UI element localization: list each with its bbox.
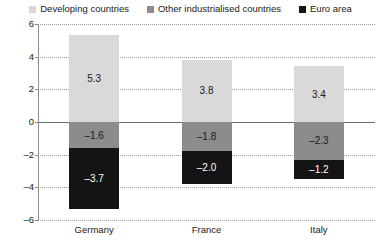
plot-area: 5.3–1.6–3.73.8–1.8–2.03.4–2.3–1.2 xyxy=(38,24,375,220)
bar-value-label: 3.4 xyxy=(312,89,326,100)
bar-group[interactable]: 5.3–1.6–3.7 xyxy=(69,24,119,220)
y-axis-tick-label: –2 xyxy=(4,150,34,160)
legend-item-euro-area: Euro area xyxy=(299,4,352,14)
legend-swatch-developing-countries xyxy=(29,6,36,13)
x-axis-tick-label: Germany xyxy=(44,224,144,235)
bar-group[interactable]: 3.8–1.8–2.0 xyxy=(182,24,232,220)
y-axis-tick xyxy=(35,220,39,221)
y-axis-tick-label: –6 xyxy=(4,215,34,225)
y-axis-tick xyxy=(35,155,39,156)
y-axis-tick-label: 2 xyxy=(4,84,34,94)
bar-value-label: –3.7 xyxy=(84,173,103,184)
y-axis-tick xyxy=(35,187,39,188)
y-axis-line xyxy=(38,24,39,220)
bar-value-label: –1.2 xyxy=(309,164,328,175)
bar-segment[interactable]: –1.8 xyxy=(182,122,232,151)
bar-segment[interactable]: 3.4 xyxy=(294,66,344,122)
bar-segment[interactable]: –1.6 xyxy=(69,122,119,148)
x-axis-tick-label: Italy xyxy=(269,224,369,235)
bar-segment[interactable]: –2.0 xyxy=(182,151,232,184)
legend-label-other-industrialised-countries: Other industrialised countries xyxy=(158,4,281,14)
y-axis-tick-label: 6 xyxy=(4,19,34,29)
gridline xyxy=(38,220,375,221)
bar-segment[interactable]: –3.7 xyxy=(69,148,119,208)
bar-value-label: –2.0 xyxy=(197,162,216,173)
y-axis-tick-label: 4 xyxy=(4,52,34,62)
x-axis-labels: GermanyFranceItaly xyxy=(38,224,375,238)
bar-segment[interactable]: 3.8 xyxy=(182,60,232,122)
y-axis-tick-label: –4 xyxy=(4,182,34,192)
bar-value-label: –1.8 xyxy=(197,131,216,142)
bar-segment[interactable]: 5.3 xyxy=(69,35,119,122)
legend-item-developing-countries: Developing countries xyxy=(29,4,129,14)
stacked-bar-chart: Developing countries Other industrialise… xyxy=(0,0,381,241)
y-axis-tick-label: 0 xyxy=(4,117,34,127)
y-axis-tick xyxy=(35,24,39,25)
legend-label-euro-area: Euro area xyxy=(310,4,352,14)
legend-label-developing-countries: Developing countries xyxy=(40,4,129,14)
y-axis-tick xyxy=(35,122,39,123)
bar-value-label: –1.6 xyxy=(84,130,103,141)
bar-segment[interactable]: –1.2 xyxy=(294,160,344,180)
legend-swatch-other-industrialised-countries xyxy=(147,6,154,13)
y-axis-tick xyxy=(35,89,39,90)
bar-group[interactable]: 3.4–2.3–1.2 xyxy=(294,24,344,220)
bar-value-label: 3.8 xyxy=(200,85,214,96)
legend-item-other-industrialised-countries: Other industrialised countries xyxy=(147,4,281,14)
y-axis-labels: 6420–2–4–6 xyxy=(0,24,34,220)
bar-value-label: –2.3 xyxy=(309,135,328,146)
legend-swatch-euro-area xyxy=(299,6,306,13)
bar-value-label: 5.3 xyxy=(87,73,101,84)
chart-legend: Developing countries Other industrialise… xyxy=(0,0,381,18)
x-axis-tick-label: France xyxy=(157,224,257,235)
bar-segment[interactable]: –2.3 xyxy=(294,122,344,160)
y-axis-tick xyxy=(35,57,39,58)
